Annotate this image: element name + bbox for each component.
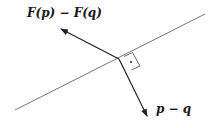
reference-line	[15, 14, 205, 110]
right-angle-marker	[124, 53, 140, 71]
difference-vector-arrow	[119, 59, 147, 116]
normal-vector-label: F(p) − F(q)	[27, 7, 102, 19]
normal-vector-arrow	[61, 29, 119, 59]
difference-vector-label: p − q	[156, 103, 191, 115]
right-angle-dot	[130, 61, 132, 63]
